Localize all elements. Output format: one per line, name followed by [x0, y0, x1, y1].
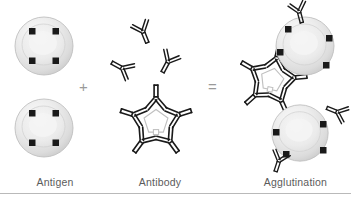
antibody-panel [107, 18, 194, 158]
antigen-panel [15, 17, 73, 157]
antibody-monomer [130, 18, 156, 46]
antibody-monomer [154, 48, 181, 77]
antigen-label: Antigen [0, 176, 110, 188]
plus-operator: + [79, 79, 88, 94]
equals-operator: = [208, 79, 217, 94]
antibody-monomer [107, 54, 136, 81]
bottom-divider [0, 193, 351, 194]
antibody-label: Antibody [105, 176, 215, 188]
agglutination-figure: + = Antigen Antibody Agglutination [0, 0, 351, 201]
agglutinated-cell [272, 105, 328, 161]
agglutination-label: Agglutination [240, 176, 351, 188]
antigen-cell [15, 17, 73, 75]
diagram-canvas [0, 0, 351, 201]
antigen-cell [15, 99, 73, 157]
agglutination-panel [229, 0, 350, 174]
agglutinated-cell [276, 17, 334, 75]
igm-pentamer [118, 85, 195, 158]
bound-antibody [323, 99, 349, 124]
